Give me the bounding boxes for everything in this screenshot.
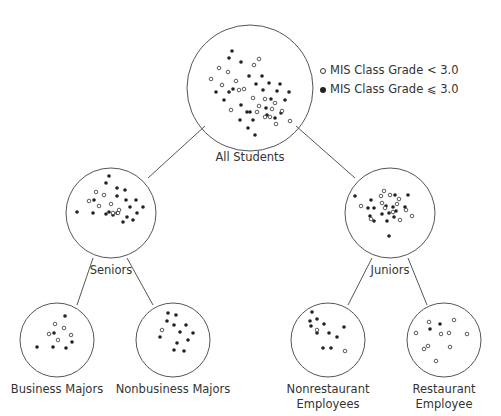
label-all-students: All Students — [210, 150, 290, 165]
node-nonrestaurant-employees — [291, 303, 365, 377]
legend-item-open: MIS Class Grade < 3.0 — [320, 61, 458, 80]
legend: MIS Class Grade < 3.0 MIS Class Grade ⩽ … — [320, 61, 458, 99]
label-restaurant-line1: Restaurant — [404, 382, 484, 397]
dots-business-majors — [35, 314, 74, 350]
label-nonrestaurant-employees: Nonrestaurant Employees — [278, 382, 378, 412]
label-nonbusiness-majors: Nonbusiness Majors — [113, 382, 233, 397]
legend-item-filled: MIS Class Grade ⩽ 3.0 — [320, 80, 458, 99]
dots-all-students — [209, 49, 292, 137]
dots-restaurant-employee — [414, 318, 469, 363]
label-nonrestaurant-line2: Employees — [278, 397, 378, 412]
dots-nonbusiness-majors — [158, 311, 195, 353]
label-business-majors: Business Majors — [7, 382, 107, 397]
node-nonbusiness-majors — [136, 303, 210, 377]
label-seniors: Seniors — [81, 263, 141, 278]
node-all-students — [187, 25, 313, 151]
node-restaurant-employee — [407, 303, 481, 377]
label-restaurant-line2: Employee — [404, 397, 484, 412]
label-juniors: Juniors — [360, 263, 420, 278]
label-nonrestaurant-line1: Nonrestaurant — [278, 382, 378, 397]
legend-label-open: MIS Class Grade < 3.0 — [330, 61, 458, 80]
dots-seniors — [75, 174, 145, 224]
dots-nonrestaurant-employees — [308, 310, 347, 353]
filled-circle-icon — [320, 87, 326, 93]
legend-label-filled: MIS Class Grade ⩽ 3.0 — [330, 80, 458, 99]
label-restaurant-employee: Restaurant Employee — [404, 382, 484, 412]
dots-juniors — [353, 189, 414, 238]
open-circle-icon — [320, 68, 326, 74]
